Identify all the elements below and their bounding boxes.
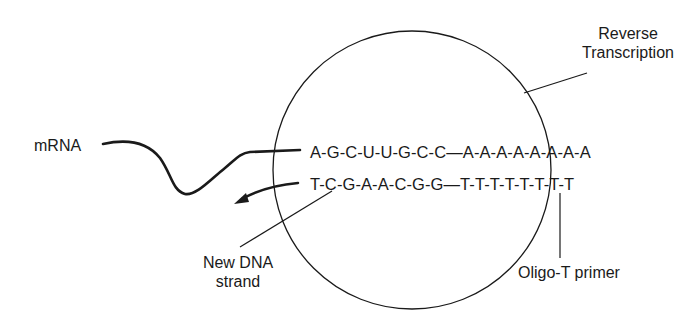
diagram-canvas: mRNA Reverse Transcription A-G-C-U-U-G-C… xyxy=(0,0,688,318)
mrna-sequence: A-G-C-U-U-G-C-C—A-A-A-A-A-A-A-A xyxy=(310,142,591,162)
new-dna-leader xyxy=(240,191,332,247)
reverse-transcription-label-line2: Transcription xyxy=(578,43,678,62)
oligo-t-primer-label: Oligo-T primer xyxy=(518,263,620,282)
arrowhead-icon xyxy=(234,193,249,204)
reverse-transcription-label-line1: Reverse xyxy=(578,24,678,43)
new-dna-label-line2: strand xyxy=(188,272,288,291)
mrna-label: mRNA xyxy=(34,136,81,155)
new-dna-arrow-line xyxy=(242,183,298,199)
reverse-transcription-leader xyxy=(524,73,587,93)
reverse-transcription-label: Reverse Transcription xyxy=(578,24,678,62)
mrna-strand-line xyxy=(103,142,300,195)
new-dna-strand-label: New DNA strand xyxy=(188,253,288,291)
new-dna-label-line1: New DNA xyxy=(188,253,288,272)
reverse-transcriptase-circle xyxy=(273,31,551,309)
dna-sequence: T-C-G-A-A-C-G-G—T-T-T-T-T-T-T-T xyxy=(310,174,574,194)
